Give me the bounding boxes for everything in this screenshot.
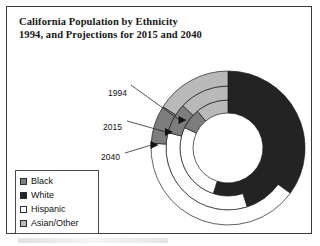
leader-line-2040: [125, 145, 152, 153]
legend-label-black: Black: [31, 176, 53, 187]
legend: Black White Hispanic Asian/Other: [15, 170, 99, 234]
legend-item-asian-other: Asian/Other: [20, 216, 95, 230]
legend-swatch-hispanic: [20, 206, 27, 213]
chart-frame: California Population by Ethnicity 1994,…: [6, 6, 312, 234]
legend-label-asian-other: Asian/Other: [31, 218, 79, 229]
rings-group: [151, 71, 305, 225]
legend-swatch-black: [20, 178, 27, 185]
ring-label-2015: 2015: [103, 122, 122, 132]
legend-swatch-asian-other: [20, 220, 27, 227]
ring-label-1994: 1994: [108, 88, 127, 98]
scan-artifact: [18, 238, 168, 243]
ring-label-2040: 2040: [101, 152, 120, 162]
legend-label-white: White: [31, 190, 54, 201]
legend-item-black: Black: [20, 174, 95, 188]
legend-label-hispanic: Hispanic: [31, 204, 66, 215]
legend-swatch-white: [20, 192, 27, 199]
legend-item-hispanic: Hispanic: [20, 202, 95, 216]
legend-item-white: White: [20, 188, 95, 202]
